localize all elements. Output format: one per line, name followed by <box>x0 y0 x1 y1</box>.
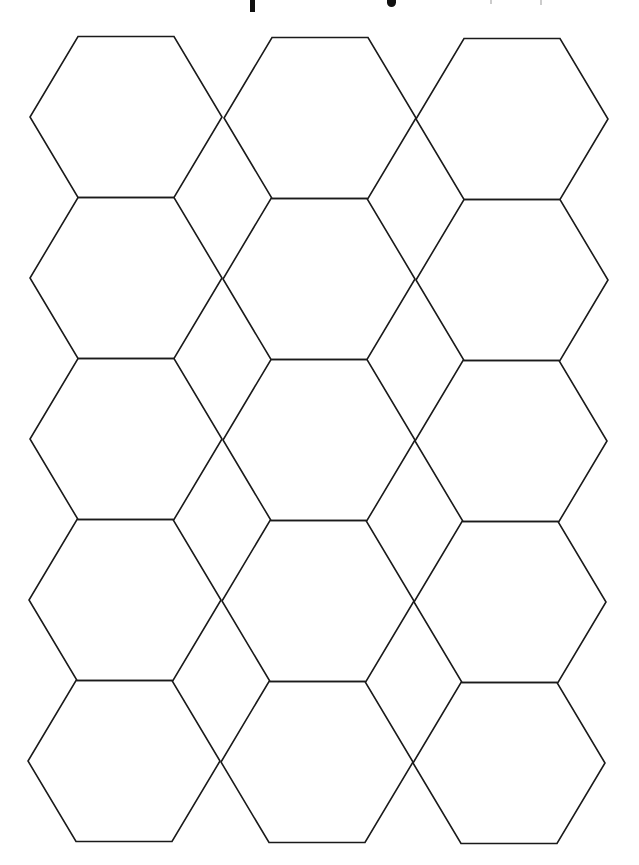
hexagon-r5-c1 <box>28 681 220 842</box>
hexagon-r4-c2 <box>222 521 414 682</box>
hexagon-r3-c1 <box>30 359 222 520</box>
hexagon-r1-c2 <box>224 38 416 199</box>
hexagon-r1-c1 <box>30 37 222 198</box>
hexagon-r3-c2 <box>223 360 415 521</box>
hexagon-r3-c3 <box>415 361 607 522</box>
hexagon-r1-c3 <box>416 39 608 200</box>
hexagon-r4-c1 <box>29 520 221 681</box>
hexagon-r2-c1 <box>30 198 222 359</box>
hexagon-r2-c3 <box>416 200 608 361</box>
hexagon-r4-c3 <box>414 522 606 683</box>
hexagon-r5-c3 <box>413 683 605 844</box>
hexagon-r5-c2 <box>221 682 413 843</box>
hexagon-grid <box>0 0 639 865</box>
hexagon-template-page <box>0 0 639 865</box>
hexagon-r2-c2 <box>223 199 415 360</box>
